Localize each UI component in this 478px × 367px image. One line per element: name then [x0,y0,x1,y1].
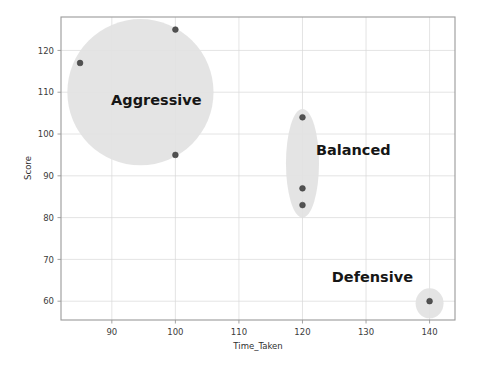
data-point [300,114,306,120]
data-point [172,152,178,158]
y-tick-label: 90 [43,171,54,181]
y-tick-label: 110 [38,87,54,97]
x-tick-label: 90 [106,327,117,337]
x-axis-title: Time_Taken [232,341,282,351]
cluster-blob-balanced [286,109,319,218]
data-point [172,27,178,33]
scatter-plot-figure: 9010011012013014060708090100110120 Aggre… [0,0,478,367]
y-tick-label: 120 [38,46,54,56]
data-point [300,185,306,191]
x-tick-label: 100 [167,327,183,337]
cluster-label-aggressive: Aggressive [111,92,202,108]
x-tick-label: 110 [231,327,247,337]
chart-canvas: 9010011012013014060708090100110120 Aggre… [0,0,478,367]
y-axis-title: Score [23,156,33,180]
cluster-label-balanced: Balanced [316,142,391,158]
x-tick-label: 130 [358,327,374,337]
data-point [77,60,83,66]
cluster-label-defensive: Defensive [332,269,413,285]
y-tick-label: 80 [43,213,54,223]
data-point [427,298,433,304]
y-tick-label: 60 [43,296,54,306]
data-point [300,202,306,208]
x-tick-label: 120 [294,327,310,337]
y-tick-label: 100 [38,129,54,139]
x-tick-label: 140 [421,327,437,337]
y-tick-label: 70 [43,255,54,265]
